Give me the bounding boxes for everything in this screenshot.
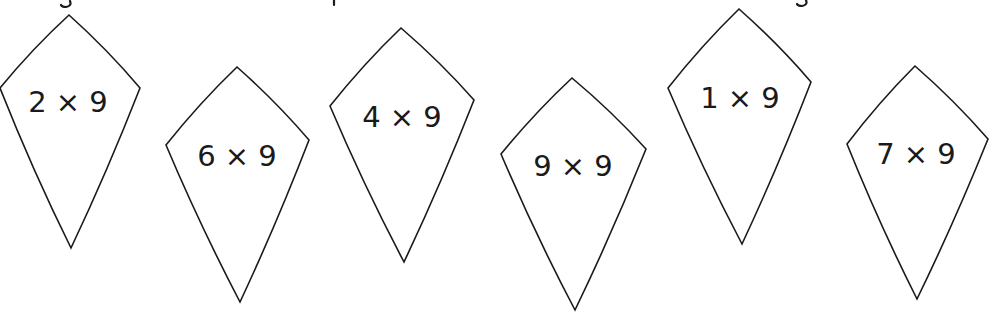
kite-outline — [847, 66, 988, 299]
kite: 7 × 9 — [847, 66, 988, 299]
kites-canvas: 2 × 96 × 94 × 99 × 91 × 97 × 9 — [0, 0, 993, 318]
kite-multiplication-label: 1 × 9 — [700, 81, 780, 115]
kite-multiplication-label: 4 × 9 — [362, 100, 442, 134]
kite-outline — [501, 78, 646, 310]
kite: 1 × 9 — [668, 9, 811, 244]
kite-multiplication-label: 6 × 9 — [197, 139, 277, 173]
kite: 9 × 9 — [501, 78, 646, 310]
kite-outline — [0, 15, 140, 248]
kite-multiplication-label: 7 × 9 — [876, 137, 956, 171]
kite: 6 × 9 — [166, 67, 309, 302]
worksheet: 2 × 96 × 94 × 99 × 91 × 97 × 9 — [0, 0, 993, 318]
clipped-header-text — [61, 0, 807, 7]
kite-multiplication-label: 9 × 9 — [533, 149, 613, 183]
kite-outline — [166, 67, 309, 302]
kite-multiplication-label: 2 × 9 — [28, 85, 108, 119]
kite: 4 × 9 — [330, 28, 474, 262]
kite: 2 × 9 — [0, 15, 140, 248]
kite-outline — [668, 9, 811, 244]
kite-outline — [330, 28, 474, 262]
